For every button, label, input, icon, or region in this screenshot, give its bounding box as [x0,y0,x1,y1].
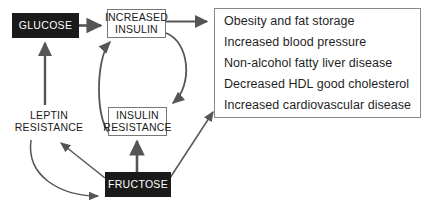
node-fructose[interactable]: FRUCTOSE [105,172,171,197]
flowchart-diagram: GLUCOSE INCREASED INSULIN INSULIN RESIST… [0,0,439,213]
node-insulin-resistance-label-line2: RESISTANCE [103,122,171,134]
edge-increased-insulin-to-insulin-resistance [166,33,186,103]
node-increased-insulin-label-line2: INSULIN [115,24,158,36]
node-leptin-resistance[interactable]: LEPTIN RESISTANCE [13,107,85,136]
outcomes-panel: Obesity and fat storage Increased blood … [214,8,421,118]
edge-fructose-to-leptin-resistance [61,143,105,178]
node-leptin-resistance-label-line2: RESISTANCE [15,122,83,134]
outcome-item: Decreased HDL good cholesterol [224,74,412,95]
outcome-item: Increased blood pressure [224,32,412,53]
edge-fructose-to-outcomes [168,112,213,181]
node-increased-insulin-label-line1: INCREASED [105,12,168,24]
node-insulin-resistance[interactable]: INSULIN RESISTANCE [108,107,167,136]
node-leptin-resistance-label-line1: LEPTIN [30,110,68,122]
node-increased-insulin[interactable]: INCREASED INSULIN [107,9,166,38]
edge-leptin-resistance-to-fructose [31,140,98,196]
node-glucose-label: GLUCOSE [19,20,72,32]
outcome-item: Increased cardiovascular disease [224,95,412,116]
outcome-item: Non-alcohol fatty liver disease [224,53,412,74]
outcome-item: Obesity and fat storage [224,11,412,32]
node-fructose-label: FRUCTOSE [108,179,168,191]
node-glucose[interactable]: GLUCOSE [12,13,79,38]
node-insulin-resistance-label-line1: INSULIN [116,110,159,122]
